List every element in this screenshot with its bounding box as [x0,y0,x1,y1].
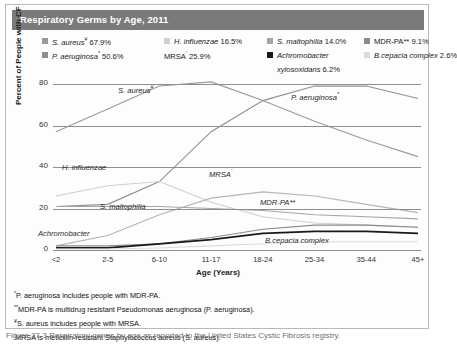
x-axis-tick-label: 6-10 [152,255,167,264]
footnote-marker: ¥ [85,37,88,43]
legend-item[interactable]: Achromobacter [267,46,346,58]
chart-legend: S. aureus¥ 67.9%P. aeruginosa* 50.6%H. i… [12,32,424,72]
footnote-line: ¥S. aureus includes people with MRSA. [14,316,434,330]
series-annotation-label: Achromobacter [38,229,90,238]
legend-column: H. influenzae 16.5%MRSA' 25.9% [164,32,242,60]
x-axis-tick-label: 25-34 [305,255,324,264]
x-axis-tick-label: 45+ [412,255,425,264]
y-axis-title: Percent of People with CF [14,6,23,105]
legend-label: Achromobacter [277,51,329,60]
x-axis-tick-label: 18-24 [253,255,272,264]
x-axis-tick-label: <2 [52,255,61,264]
footnote-marker: ¥ [14,318,17,324]
legend-item[interactable]: xylosoxidans 6.2% [267,60,346,72]
x-axis-tick-label: 11-17 [202,255,221,264]
footnote-marker: * [337,91,339,97]
legend-item[interactable]: MDR-PA** 9.1% [364,32,457,44]
footnote-marker: ' [186,51,187,57]
legend-label: P. aeruginosa* 50.6% [52,52,124,61]
legend-item[interactable]: H. influenzae 16.5% [164,32,242,44]
legend-label: B.cepacia complex 2.6% [374,51,457,60]
gridline: 60 [53,126,421,127]
y-axis-tick-label: 0 [44,244,48,253]
series-annotation-label: B.cepacia complex [265,236,329,245]
series-line [56,82,418,157]
legend-swatch-icon [164,38,170,44]
legend-item[interactable]: P. aeruginosa* 50.6% [42,46,124,58]
y-axis-tick-label: 20 [39,203,48,212]
legend-item[interactable]: B.cepacia complex 2.6% [364,46,457,58]
gridline: 40 [53,167,421,168]
footnote-marker: * [14,290,16,296]
gridline: 0 [53,250,421,251]
footnote-marker: ¥ [151,84,154,90]
figure-caption: Figure 27-3 Respiratory germs by age as … [6,331,436,340]
series-line [56,192,418,246]
series-annotation-label: S. maltophilia [100,202,146,211]
series-line [56,225,418,246]
series-line [56,86,418,206]
footnote-line: *P. aeruginosa includes people with MDR-… [14,288,434,302]
legend-label: MRSA' 25.9% [164,52,211,61]
x-axis-tick-labels: <22-56-1011-1718-2425-3435-4445+ [53,255,421,267]
legend-swatch-icon [267,38,273,44]
x-axis-title: Age (Years) [6,268,430,277]
legend-swatch-icon [42,52,48,58]
series-annotation-label: S. aureus¥ [118,84,153,95]
legend-column: S. maltophilia 14.0%Achromobacterxylosox… [267,32,346,74]
legend-label: xylosoxidans 6.2% [277,65,340,74]
y-axis-tick-label: 60 [39,120,48,129]
x-axis-tick-label: 2-5 [102,255,113,264]
legend-swatch-icon [267,52,273,58]
y-axis-tick-label: 40 [39,161,48,170]
x-axis-tick-label: 35-44 [357,255,376,264]
footnote-marker: ' [231,168,232,174]
legend-swatch-icon [364,52,370,58]
legend-swatch-icon [364,38,370,44]
legend-item[interactable]: S. maltophilia 14.0% [267,32,346,44]
plot-area: 020406080 [53,84,421,250]
footnote-marker: * [98,51,100,57]
legend-label: H. influenzae 16.5% [174,37,242,46]
legend-column: S. aureus¥ 67.9%P. aeruginosa* 50.6% [42,32,124,60]
legend-swatch-icon [42,38,48,44]
series-annotation-label: MDR-PA** [260,198,295,207]
series-annotation-label: P. aeruginosa* [291,91,339,102]
gridline: 80 [53,84,421,85]
chart-title-bar: Respiratory Germs by Age, 2011 [12,10,424,30]
footnote-marker: ** [14,304,18,310]
page-title: Respiratory Germs by Age, 2011 [20,14,168,25]
y-axis-tick-label: 80 [39,78,48,87]
legend-item[interactable]: MRSA' 25.9% [164,46,242,58]
legend-label: MDR-PA** 9.1% [374,37,429,46]
legend-item[interactable]: S. aureus¥ 67.9% [42,32,124,44]
series-annotation-label: H. influenzae [62,163,106,172]
footnote-line: **MDR-PA is multidrug resistant Pseudomo… [14,302,434,316]
legend-column: MDR-PA** 9.1%B.cepacia complex 2.6% [364,32,457,60]
legend-label: S. maltophilia 14.0% [277,37,346,46]
series-annotation-label: MRSA' [209,168,232,179]
